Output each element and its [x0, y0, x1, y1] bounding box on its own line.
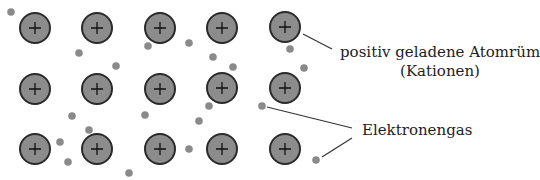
cation-label: positiv geladene Atomrümpfe (Kationen) [340, 43, 540, 81]
metal-bond-diagram: positiv geladene Atomrümpfe (Kationen) E… [0, 0, 540, 180]
cation-icon [270, 134, 300, 164]
electron-icon [112, 62, 120, 70]
electron-icon [125, 169, 133, 177]
electron-gas-label: Elektronengas [362, 121, 472, 140]
electron-icon [68, 112, 76, 120]
electron-icon [209, 53, 217, 61]
cation-icon [207, 134, 237, 164]
electron-icon [185, 39, 193, 47]
cation-icon [207, 13, 237, 43]
electron-icon [195, 117, 203, 125]
cation-icon [145, 13, 175, 43]
cation-icon [82, 74, 112, 104]
leader-line [267, 107, 352, 128]
diagram-canvas [0, 0, 540, 180]
electron-icon [312, 156, 320, 164]
electron-icon [229, 63, 237, 71]
cation-icon [270, 73, 300, 103]
cation-icon [20, 13, 50, 43]
electron-icon [300, 64, 308, 72]
electron-icon [258, 102, 266, 110]
cation-icon [20, 74, 50, 104]
leader-line [322, 138, 352, 157]
cation-icon [145, 134, 175, 164]
leader-line [303, 34, 332, 49]
electron-icon [85, 126, 93, 134]
cation-icon [207, 73, 237, 103]
cation-label-line2: (Kationen) [340, 62, 540, 81]
electron-icon [141, 111, 149, 119]
electron-icon [7, 8, 15, 16]
electron-icon [64, 158, 72, 166]
electron-icon [144, 42, 152, 50]
cation-icon [20, 134, 50, 164]
cation-icon [82, 134, 112, 164]
electron-icon [185, 145, 193, 153]
electron-icon [286, 45, 294, 53]
electron-icon [56, 138, 64, 146]
cation-icon [270, 12, 300, 42]
cation-label-line1: positiv geladene Atomrümpfe [340, 43, 540, 62]
electron-icon [75, 49, 83, 57]
cation-icon [82, 13, 112, 43]
cation-icon [145, 74, 175, 104]
electron-icon [205, 102, 213, 110]
